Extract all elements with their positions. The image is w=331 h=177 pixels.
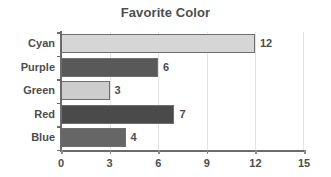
x-axis-line <box>60 150 305 152</box>
x-axis-label-0: 0 <box>49 156 73 170</box>
x-tick-15 <box>304 150 306 154</box>
y-axis-line <box>60 31 62 151</box>
x-axis-label-2: 6 <box>146 156 170 170</box>
y-axis-label-2: Green <box>3 82 55 98</box>
bar-value-green: 3 <box>115 82 121 98</box>
bar-value-red: 7 <box>180 106 186 122</box>
chart-title: Favorite Color <box>0 5 331 20</box>
y-axis-category-labels: Cyan Purple Green Red Blue <box>0 32 55 150</box>
plot-area: 12 6 3 7 4 <box>61 32 304 150</box>
bar-cyan[interactable] <box>61 34 255 53</box>
bar-value-cyan: 12 <box>260 35 272 51</box>
bar-green[interactable] <box>61 81 110 100</box>
x-tick-9 <box>207 150 209 154</box>
x-axis-label-1: 3 <box>98 156 122 170</box>
bar-value-purple: 6 <box>163 59 169 75</box>
bar-blue[interactable] <box>61 128 126 147</box>
y-axis-label-0: Cyan <box>3 35 55 51</box>
x-tick-6 <box>158 150 160 154</box>
y-axis-label-3: Red <box>3 106 55 122</box>
y-axis-label-4: Blue <box>3 129 55 145</box>
x-axis-label-3: 9 <box>195 156 219 170</box>
x-tick-0 <box>61 150 63 154</box>
y-axis-label-1: Purple <box>3 59 55 75</box>
gridline-15 <box>303 32 304 150</box>
bar-red[interactable] <box>61 105 174 124</box>
gridline-12 <box>255 32 256 150</box>
x-tick-12 <box>255 150 257 154</box>
bar-value-blue: 4 <box>131 129 137 145</box>
x-tick-3 <box>110 150 112 154</box>
bar-chart: Favorite Color Cyan Purple Green Red Blu… <box>0 0 331 177</box>
x-axis-label-4: 12 <box>243 156 267 170</box>
x-axis-label-5: 15 <box>292 156 316 170</box>
bar-purple[interactable] <box>61 58 158 77</box>
